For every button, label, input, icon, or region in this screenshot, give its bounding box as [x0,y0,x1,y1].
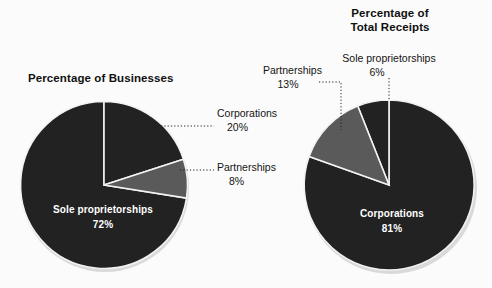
left-inside-label-name: Sole proprietorships [53,204,153,215]
right-chart-title-line2: Total Receipts [350,21,429,33]
right-callout-sole-value: 6% [369,66,384,78]
left-chart-title: Percentage of Businesses [28,72,174,84]
right-pie-chart-group: Percentage of Total Receipts Sole propri… [263,7,477,274]
left-callout-partnerships-name: Partnerships [217,161,276,173]
right-callout-partnerships-name: Partnerships [263,64,322,76]
right-chart-title-line1: Percentage of [351,7,428,19]
figure-canvas: Percentage of Businesses Corporations 20… [0,0,492,288]
left-callout-partnerships-value: 8% [229,175,244,187]
right-inside-label-name: Corporations [360,208,424,219]
right-callout-partnerships-value: 13% [277,78,298,90]
right-callout-sole-name: Sole proprietorships [342,52,435,64]
right-inside-label-value: 81% [382,223,402,234]
left-callout-corporations-name: Corporations [217,107,277,119]
left-pie-chart-group: Percentage of Businesses Corporations 20… [21,72,278,272]
two-pie-chart-figure: Percentage of Businesses Corporations 20… [0,0,492,288]
left-callout-corporations-value: 20% [227,121,248,133]
left-inside-label-value: 72% [93,219,113,230]
